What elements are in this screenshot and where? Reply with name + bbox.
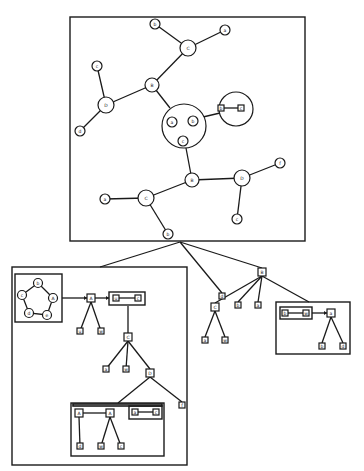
node-label: a <box>204 338 207 343</box>
node-label: C <box>126 335 129 340</box>
node-label: w <box>124 367 128 372</box>
node-label: b <box>192 119 195 124</box>
node-label: d <box>79 444 82 449</box>
node-label: C <box>144 196 147 201</box>
node-label: B <box>150 83 153 88</box>
node-label: a <box>224 28 227 33</box>
node-label: a <box>134 410 137 415</box>
cycle-subgraph: b A e d c <box>18 279 58 320</box>
node-label: b <box>321 344 324 349</box>
node-label: w <box>99 329 103 334</box>
left-tree-nodes: A u c u w C a w D f A A a c d w c <box>75 294 185 449</box>
node-label: b <box>284 311 287 316</box>
node-label: w <box>99 444 103 449</box>
node-label: b <box>167 232 170 237</box>
node-label: B <box>260 270 263 275</box>
node-label: w <box>304 311 308 316</box>
node-label: b <box>154 22 157 27</box>
node-label: d <box>28 311 31 316</box>
node-label: d <box>342 344 345 349</box>
hierarchy-diagram: b c b C a c B D d a b c B D f c C a <box>0 0 364 471</box>
node-label: b <box>37 281 40 286</box>
node-label: d <box>79 129 82 134</box>
node-label: a <box>171 120 174 125</box>
node-label: a <box>257 303 260 308</box>
node-label: e <box>46 313 49 318</box>
node-label: C <box>186 46 189 51</box>
node-label: B <box>190 178 193 183</box>
node-label: a <box>330 311 333 316</box>
node-label: D <box>148 371 152 376</box>
node-label: C <box>213 305 216 310</box>
node-label: D <box>104 103 108 108</box>
left-subtree-frame <box>12 267 187 465</box>
node-label: w <box>223 338 227 343</box>
node-label: u <box>79 329 82 334</box>
node-label: a <box>104 197 107 202</box>
node-label: d <box>221 294 224 299</box>
node-label: u <box>115 296 118 301</box>
node-label: b <box>237 303 240 308</box>
node-label: a <box>105 367 108 372</box>
node-label: D <box>240 176 244 181</box>
node-label: b <box>220 106 223 111</box>
